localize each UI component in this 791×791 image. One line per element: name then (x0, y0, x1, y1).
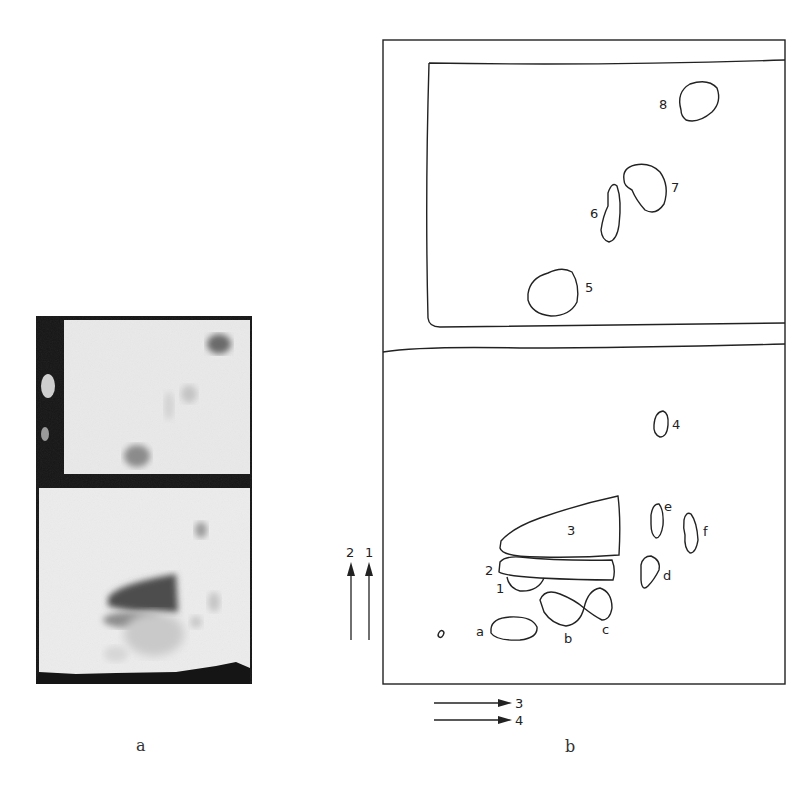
label-b: b (564, 631, 572, 646)
label-1: 1 (496, 581, 504, 596)
label-a: a (476, 624, 484, 639)
spot-6 (601, 185, 620, 242)
horizontal-arrow-3 (434, 699, 512, 707)
label-arrow-1: 1 (365, 545, 373, 560)
label-5: 5 (585, 280, 593, 295)
label-8: 8 (659, 97, 667, 112)
spot-2 (499, 557, 614, 580)
label-d: d (663, 568, 671, 583)
vertical-arrow-2 (347, 562, 355, 640)
plate-divider (383, 344, 785, 352)
spot-f (684, 513, 698, 553)
spot-c (584, 588, 612, 620)
label-3: 3 (567, 523, 575, 538)
spot-a (491, 617, 537, 640)
spot-4 (654, 411, 668, 437)
label-arrow-2: 2 (346, 545, 354, 560)
spot-b (540, 592, 584, 626)
label-e: e (664, 499, 672, 514)
label-arrow-4: 4 (515, 713, 523, 728)
label-c: c (602, 622, 609, 637)
outer-frame (383, 40, 785, 684)
panel-b-caption: b (565, 737, 575, 756)
spot-origin (437, 630, 445, 639)
label-arrow-3: 3 (515, 696, 523, 711)
spot-7 (624, 164, 667, 212)
label-6: 6 (590, 206, 598, 221)
spot-e (651, 504, 663, 538)
spot-1 (507, 577, 544, 591)
spot-3 (500, 496, 620, 557)
spot-d (641, 556, 659, 588)
label-4: 4 (672, 417, 680, 432)
panel-b-diagram: 8 7 6 5 4 3 2 1 a b c d e f (0, 0, 791, 791)
label-7: 7 (671, 180, 679, 195)
spot-5 (528, 269, 578, 316)
label-f: f (703, 524, 708, 539)
vertical-arrow-1 (365, 562, 373, 640)
horizontal-arrow-4 (434, 716, 512, 724)
label-2: 2 (485, 563, 493, 578)
spot-8 (680, 82, 719, 121)
upper-plate-outline (427, 60, 785, 327)
